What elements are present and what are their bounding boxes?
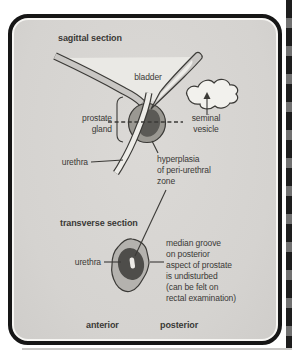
median-groove-label-line4: is undisturbed: [166, 271, 218, 281]
median-groove-label-line1: median groove: [166, 238, 221, 248]
hyperplasia-label-line3: zone: [157, 176, 175, 186]
seminal-vesicle-label-line1: seminal: [192, 113, 221, 123]
hyperplasia-pointer-line: [152, 141, 158, 153]
seminal-vesicle-shape: [187, 79, 238, 109]
prostate-label-line2: gland: [92, 124, 113, 134]
urethra-label-transverse: urethra: [75, 257, 102, 267]
zone-pointer-line: [135, 190, 166, 256]
posterior-label: posterior: [160, 320, 199, 330]
sagittal-section-diagram: sagittal section bladder prostate gland …: [55, 33, 238, 186]
urethra-pointer-line: [91, 160, 123, 162]
median-groove-label-line2: on posterior: [166, 249, 210, 259]
seminal-vesicle-label-line2: vesicle: [193, 124, 219, 134]
bladder-label: bladder: [134, 72, 162, 82]
prostate-label-line1: prostate: [82, 113, 112, 123]
prostate-bracket: [117, 97, 123, 142]
anterior-label: anterior: [86, 320, 119, 330]
median-groove-label-line6: rectal examination): [166, 293, 236, 303]
median-groove-label-line3: aspect of prostate: [166, 260, 232, 270]
transverse-heading: transverse section: [60, 218, 138, 228]
figure-canvas: sagittal section bladder prostate gland …: [0, 0, 292, 356]
median-groove-label-line5: (can be felt on: [166, 282, 219, 292]
sagittal-heading: sagittal section: [58, 33, 122, 43]
hyperplasia-label-line1: hyperplasia: [157, 154, 200, 164]
transverse-section-diagram: transverse section urethra median groove…: [60, 190, 236, 303]
urethra-label-sagittal: urethra: [62, 157, 89, 167]
hyperplasia-label-line2: of peri-urethral: [157, 165, 211, 175]
